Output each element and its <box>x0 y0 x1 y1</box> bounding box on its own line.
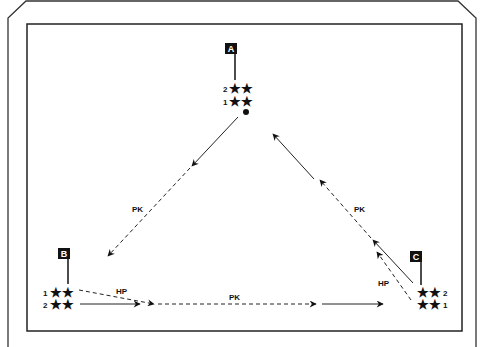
ball-icon <box>243 109 249 115</box>
b-row-2-stars: ★★ <box>50 297 74 312</box>
b-row-2-num: 2 <box>43 301 48 310</box>
outer-frame <box>8 1 476 347</box>
b-row-1-num: 1 <box>43 289 48 298</box>
flag-c-label: C <box>413 252 420 262</box>
player-c-group: C ★★ 2 ★★ 1 <box>410 251 448 312</box>
a-row-2-stars: ★★ <box>229 94 253 109</box>
field-rectangle <box>27 24 462 331</box>
a-row-2-num: 1 <box>223 98 228 107</box>
player-b-group: B 1 ★★ 2 ★★ <box>43 248 74 312</box>
pk-bottom-label: PK <box>229 293 240 302</box>
flag-a-label: A <box>228 44 235 54</box>
hp-left-label: HP <box>116 287 128 296</box>
c-row-2-num: 1 <box>443 301 448 310</box>
hp-right-label: HP <box>378 279 390 288</box>
pk-left-label: PK <box>132 205 143 214</box>
player-a-group: A 2 ★★ 1 ★★ <box>223 43 253 115</box>
c-row-2-stars: ★★ <box>417 297 441 312</box>
drill-diagram: A 2 ★★ 1 ★★ PK B 1 ★★ 2 ★★ HP PK C ★★ 2 … <box>0 0 484 347</box>
flag-b-label: B <box>61 249 68 259</box>
pk-right-label: PK <box>354 205 365 214</box>
a-row-1-num: 2 <box>223 85 228 94</box>
c-row-1-num: 2 <box>443 289 448 298</box>
